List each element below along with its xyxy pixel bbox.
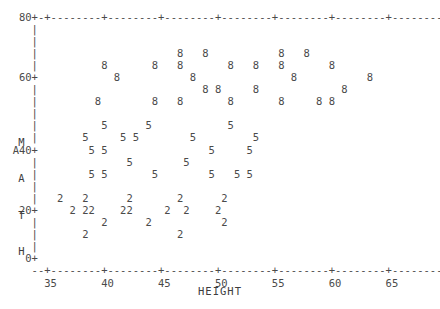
plot-row: | | bbox=[0, 180, 440, 192]
plot-row: | 8 8 8 8 | bbox=[0, 47, 440, 59]
plot-row: 20+ 2 22 22 2 2 2 | bbox=[0, 204, 440, 216]
plot-row: | | bbox=[0, 107, 440, 119]
plot-row: 0+ | bbox=[0, 252, 440, 264]
plot-row: A40+ 5 5 5 5 | bbox=[0, 144, 440, 156]
plot-row: | 2 2 | bbox=[0, 228, 440, 240]
plot-row: | + bbox=[0, 240, 440, 252]
y-axis-title-char-t: T bbox=[17, 209, 26, 221]
plot-row: | 8 8 8 8 8 8 8 | bbox=[0, 59, 440, 71]
plot-row: | 2 2 2 2 2 + bbox=[0, 192, 440, 204]
plot-row: 60+ 8 8 8 8 + bbox=[0, 71, 440, 83]
plot-row: --+--------+--------+--------+--------+-… bbox=[0, 264, 440, 276]
ascii-plot-canvas: 80+-+--------+--------+--------+--------… bbox=[0, 11, 440, 309]
y-axis-title-char-a: A bbox=[17, 172, 26, 184]
plot-row: | 5 5 5 5 5 5 | bbox=[0, 168, 440, 180]
y-axis-title-char-m: M bbox=[17, 136, 26, 148]
character-plot-page: 80+-+--------+--------+--------+--------… bbox=[0, 0, 440, 309]
plot-row: | + bbox=[0, 23, 440, 35]
y-axis-title-char-h: H bbox=[17, 245, 26, 257]
plot-row: 80+-+--------+--------+--------+--------… bbox=[0, 11, 440, 23]
plot-row: | 5 5 5 5 5 + bbox=[0, 131, 440, 143]
plot-row: | 2 2 2 | bbox=[0, 216, 440, 228]
plot-row: | 8 8 8 8 8 8 8 | bbox=[0, 95, 440, 107]
plot-row: | 8 8 8 8 | bbox=[0, 83, 440, 95]
x-axis-title: HEIGHT bbox=[0, 285, 440, 297]
y-axis-title: M A T H bbox=[17, 112, 42, 281]
plot-row: | 5 5 5 | bbox=[0, 119, 440, 131]
plot-row: | 5 5 | bbox=[0, 156, 440, 168]
plot-row: | | bbox=[0, 35, 440, 47]
